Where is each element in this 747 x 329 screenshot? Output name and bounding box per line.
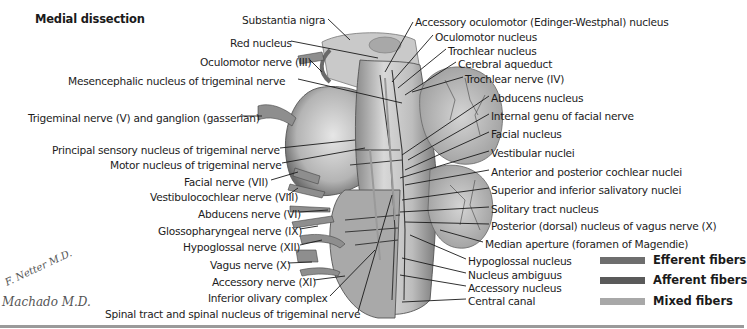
structure-label: Facial nucleus <box>491 128 562 140</box>
structure-label: Vagus nerve (X) <box>210 259 291 271</box>
structure-label: Red nucleus <box>230 37 292 49</box>
legend-label: Mixed fibers <box>653 294 733 308</box>
structure-label: Glossopharyngeal nerve (IX) <box>158 225 302 237</box>
structure-label: Cerebral aqueduct <box>458 58 552 70</box>
structure-label: Median aperture (foramen of Magendie) <box>485 238 688 250</box>
structure-label: Hypoglossal nerve (XII) <box>183 241 300 253</box>
structure-label: Spinal tract and spinal nucleus of trige… <box>105 308 360 320</box>
structure-label: Trochlear nerve (IV) <box>465 73 564 85</box>
structure-label: Internal genu of facial nerve <box>491 110 634 122</box>
structure-label: Superior and inferior salivatory nuclei <box>491 184 681 196</box>
structure-label: Substantia nigra <box>242 14 325 26</box>
afferent-swatch <box>600 277 645 284</box>
structure-label: Oculomotor nerve (III) <box>200 56 311 68</box>
efferent-swatch <box>600 257 645 264</box>
structure-label: Principal sensory nucleus of trigeminal … <box>52 144 280 156</box>
structure-label: Central canal <box>468 295 535 307</box>
mixed-swatch <box>600 298 645 305</box>
structure-label: Trochlear nucleus <box>448 45 536 57</box>
structure-label: Motor nucleus of trigeminal nerve <box>110 159 281 171</box>
structure-label: Vestibulocochlear nerve (VIII) <box>150 191 298 203</box>
structure-label: Posterior (dorsal) nucleus of vagus nerv… <box>491 220 716 232</box>
legend-label: Afferent fibers <box>653 273 747 287</box>
machado-signature: Machado M.D. <box>2 295 91 309</box>
legend-label: Efferent fibers <box>653 253 746 267</box>
figure-title: Medial dissection <box>35 12 145 26</box>
structure-label: Vestibular nuclei <box>491 147 575 159</box>
structure-label: Abducens nucleus <box>491 92 583 104</box>
structure-label: Inferior olivary complex <box>208 292 328 304</box>
structure-label: Solitary tract nucleus <box>491 203 599 215</box>
structure-label: Abducens nerve (VI) <box>198 208 301 220</box>
legend-item-efferent: Efferent fibers <box>600 253 746 267</box>
structure-label: Hypoglossal nucleus <box>468 255 572 267</box>
legend-item-afferent: Afferent fibers <box>600 273 747 287</box>
structure-label: Facial nerve (VII) <box>184 176 268 188</box>
structure-label: Oculomotor nucleus <box>435 31 537 43</box>
structure-label: Accessory nucleus <box>468 282 561 294</box>
structure-label: Nucleus ambiguus <box>468 269 562 281</box>
structure-label: Mesencephalic nucleus of trigeminal nerv… <box>68 75 285 87</box>
structure-label: Trigeminal nerve (V) and ganglion (gasse… <box>28 112 260 124</box>
structure-label: Anterior and posterior cochlear nuclei <box>491 166 682 178</box>
structure-label: Accessory nerve (XI) <box>212 276 316 288</box>
bottom-rule <box>0 325 744 328</box>
legend-item-mixed: Mixed fibers <box>600 294 733 308</box>
structure-label: Accessory oculomotor (Edinger-Westphal) … <box>415 16 668 28</box>
